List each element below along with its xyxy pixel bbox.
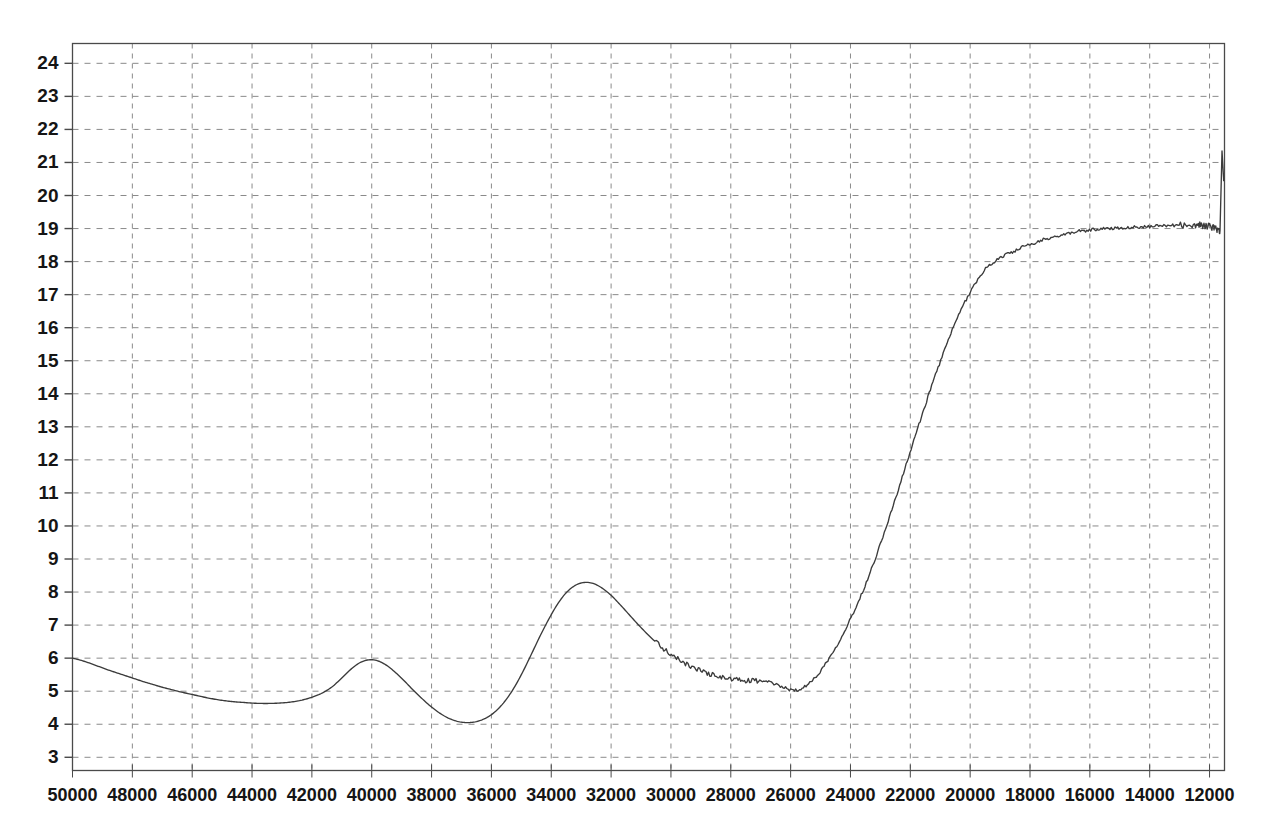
y-axis-tick-label: 21 <box>37 152 58 171</box>
plot-border <box>73 44 1225 771</box>
y-axis-tick-label: 8 <box>48 582 59 601</box>
y-axis-tick-label: 14 <box>37 384 58 403</box>
y-axis-tick-label: 3 <box>48 747 59 766</box>
y-axis-tick-label: 11 <box>38 483 58 502</box>
x-axis-tick-label: 12000 <box>1170 786 1250 804</box>
y-axis-tick-label: 19 <box>37 219 58 238</box>
chart-container: 2423222120191817161514131211109876543 50… <box>0 0 1263 839</box>
y-axis-tick-label: 5 <box>48 681 59 700</box>
y-axis-tick-label: 24 <box>37 53 58 72</box>
axis-tick-marks <box>65 63 1210 777</box>
y-axis-tick-label: 20 <box>37 186 58 205</box>
y-axis-tick-label: 9 <box>48 549 59 568</box>
y-axis-tick-label: 12 <box>37 450 58 469</box>
y-axis-tick-label: 10 <box>37 516 58 535</box>
y-axis-tick-label: 7 <box>48 615 59 634</box>
y-axis-tick-label: 16 <box>37 318 58 337</box>
y-axis-tick-label: 23 <box>37 86 58 105</box>
grid-lines <box>73 44 1225 771</box>
y-axis-tick-label: 18 <box>37 252 58 271</box>
data-series-layer <box>73 151 1224 723</box>
y-axis-tick-label: 17 <box>37 285 58 304</box>
y-axis-tick-label: 13 <box>37 417 58 436</box>
y-axis-tick-label: 15 <box>37 351 58 370</box>
y-axis-tick-label: 22 <box>37 119 58 138</box>
y-axis-tick-label: 6 <box>48 648 59 667</box>
line-chart-plot <box>0 0 1263 839</box>
y-axis-tick-label: 4 <box>48 714 59 733</box>
